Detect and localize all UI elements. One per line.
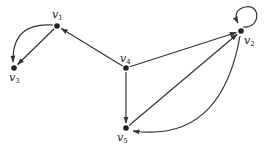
edge-v1-to-v3 [13,25,53,62]
label-v5: v5 [117,131,128,145]
label-v2: v2 [244,34,255,48]
label-v1: v1 [52,8,63,22]
node-v1 [54,23,60,29]
edge-v1-to-v3 [18,29,55,65]
node-v4 [123,65,129,71]
node-v3 [11,65,17,71]
node-v2 [238,28,244,34]
label-v3: v3 [9,71,20,85]
directed-graph: v1v2v3v4v5 [0,0,275,149]
edge-v2-to-v2 [236,7,257,28]
edge-v4-to-v1 [61,29,122,66]
edge-v2-to-v5 [133,36,240,132]
label-v4: v4 [120,52,131,66]
node-v5 [123,125,129,131]
edge-v4-to-v2 [130,33,236,67]
edge-v5-to-v2 [129,34,237,125]
